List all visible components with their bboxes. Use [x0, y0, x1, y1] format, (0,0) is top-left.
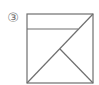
midpoint-to-corner-line — [60, 49, 93, 83]
geometry-figure — [0, 0, 99, 85]
